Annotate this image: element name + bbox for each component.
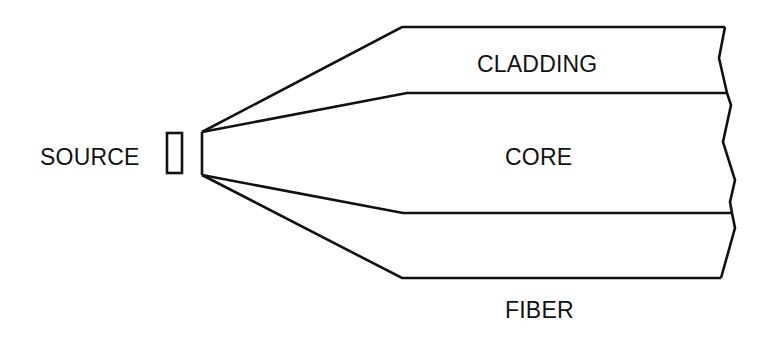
source-rectangle	[167, 133, 182, 173]
source-label: SOURCE	[40, 144, 140, 170]
core-bottom-boundary	[202, 175, 732, 213]
core-top-boundary	[202, 93, 727, 132]
fiber-diagram: SOURCE CLADDING CORE FIBER	[0, 0, 771, 337]
fiber-label: FIBER	[505, 297, 574, 323]
cladding-label: CLADDING	[477, 51, 597, 77]
fiber-break-edge	[719, 27, 735, 278]
core-label: CORE	[505, 144, 572, 170]
